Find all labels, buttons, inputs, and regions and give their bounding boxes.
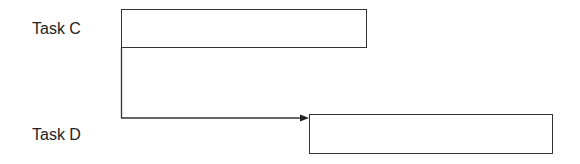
- arrowhead-icon: [300, 115, 309, 122]
- dependency-connector: [0, 0, 580, 164]
